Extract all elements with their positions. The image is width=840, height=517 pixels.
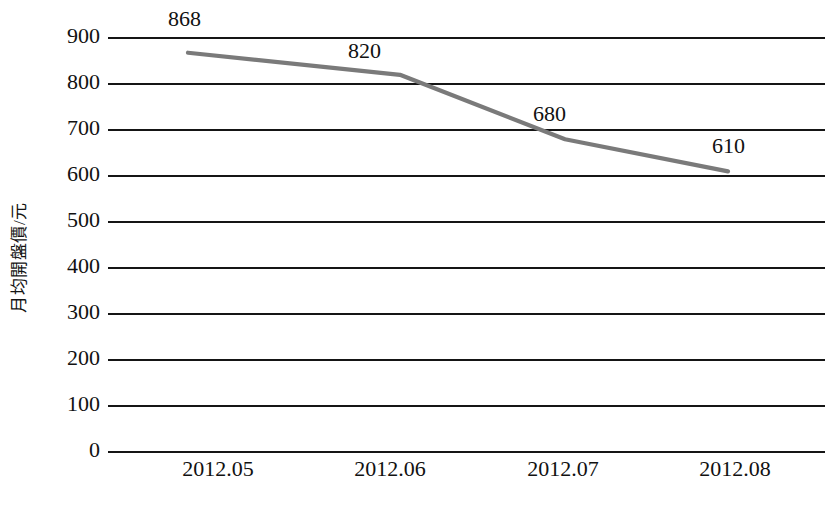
x-axis-tick-label: 2012.08: [655, 456, 815, 482]
y-axis-tick-label: 600: [38, 163, 100, 185]
y-axis-tick-label: 400: [38, 255, 100, 277]
y-axis-tick-label: 900: [38, 25, 100, 47]
data-point-label: 868: [168, 8, 201, 30]
x-axis-tick-label: 2012.05: [138, 456, 298, 482]
y-axis-tick-labels: 9008007006005004003002001000: [36, 0, 100, 517]
x-axis-tick-labels: 2012.052012.062012.072012.08: [106, 456, 828, 490]
series-line-group: [188, 53, 728, 172]
y-axis-tick-label: 300: [38, 301, 100, 323]
plot-svg: [106, 0, 828, 517]
x-axis-tick-label: 2012.06: [310, 456, 470, 482]
y-axis-title: 月均開盤價/元: [0, 150, 34, 365]
data-point-label: 680: [533, 103, 566, 125]
plot-area: [106, 0, 828, 517]
y-axis-tick-label: 700: [38, 117, 100, 139]
data-point-label: 610: [712, 135, 745, 157]
y-axis-tick-label: 0: [38, 439, 100, 461]
y-axis-tick-label: 500: [38, 209, 100, 231]
data-point-label: 820: [348, 40, 381, 62]
line-chart: 月均開盤價/元 9008007006005004003002001000 201…: [0, 0, 840, 517]
series-line: [188, 53, 728, 172]
y-axis-tick-label: 200: [38, 347, 100, 369]
y-axis-tick-label: 800: [38, 71, 100, 93]
y-axis-tick-label: 100: [38, 393, 100, 415]
x-axis-tick-label: 2012.07: [483, 456, 643, 482]
y-axis-title-text: 月均開盤價/元: [5, 202, 30, 312]
